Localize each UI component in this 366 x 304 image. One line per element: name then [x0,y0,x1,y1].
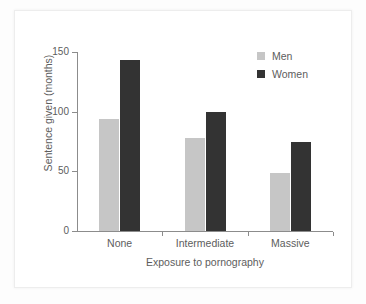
x-axis-line [77,231,333,232]
x-tick-mark [248,232,249,236]
x-tick-mark [333,232,334,236]
x-category-label: Intermediate [162,237,247,249]
y-axis-title: Sentence given (months) [42,18,54,208]
x-category-label: None [77,237,162,249]
x-category-label: Massive [248,237,333,249]
legend-label: Women [272,69,308,80]
legend-swatch-icon [257,52,265,60]
x-axis-title: Exposure to pornography [77,256,333,268]
bar-men-intermediate [185,138,205,231]
bar-women-intermediate [206,112,226,231]
bar-women-none [120,60,140,231]
bar-men-none [99,119,119,231]
bar-women-massive [291,142,311,232]
legend-label: Men [272,51,292,62]
y-tick-mark [72,231,77,232]
legend-item-women: Women [257,69,308,80]
y-tick-label: 0 [29,226,69,236]
chart-legend: MenWomen [257,51,308,86]
bar-men-massive [270,173,290,231]
bar-group [99,52,140,231]
legend-item-men: Men [257,51,308,62]
x-tick-mark [162,232,163,236]
bar-chart-plot: 050100150 NoneIntermediateMassive Senten… [15,11,353,289]
legend-swatch-icon [257,70,265,78]
figure-card: 050100150 NoneIntermediateMassive Senten… [14,10,352,288]
bar-group [185,52,226,231]
